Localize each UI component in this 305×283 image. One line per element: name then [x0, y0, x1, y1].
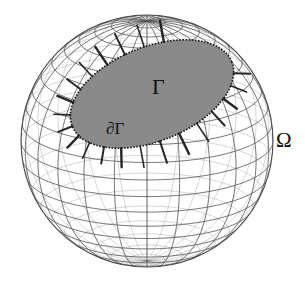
figure-canvas: Γ ∂Γ Ω [0, 0, 305, 283]
label-boundary-gamma: ∂Γ [106, 120, 124, 137]
sphere-diagram-svg [0, 0, 305, 283]
label-omega: Ω [276, 130, 292, 151]
label-gamma: Γ [152, 76, 165, 98]
